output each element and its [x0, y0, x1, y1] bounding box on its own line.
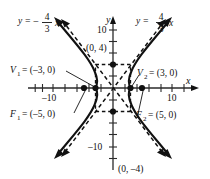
point-vertex-left: [92, 85, 98, 91]
hyperbola-figure-container: x y –10 10 10 –10 y = – 4 3 x y = 4 3 x …: [0, 0, 210, 179]
label-focus-left-name: F: [9, 109, 16, 119]
label-focus-left-value: = (–5, 0): [22, 109, 55, 120]
label-co-vertex-bottom: (0, –4): [118, 164, 143, 175]
leader-focus-left: [74, 91, 85, 113]
hyperbola-graph: x y –10 10 10 –10 y = – 4 3 x y = 4 3 x …: [0, 0, 210, 179]
asymptote-right-variable: x: [168, 18, 174, 28]
asymptote-left-denominator: 3: [45, 24, 50, 34]
point-focus-left: [81, 85, 87, 91]
y-axis-arrowhead: [110, 16, 116, 24]
label-focus-right-value: = (5, 0): [148, 110, 176, 121]
asymptote-right-numerator: 4: [159, 12, 164, 22]
x-tick-label-negative-ten: –10: [41, 93, 57, 103]
asymptote-left-prefix: y = –: [17, 16, 38, 26]
point-vertex-right: [127, 85, 133, 91]
asymptote-left-numerator: 4: [45, 12, 50, 22]
asymptote-left-equation: y = – 4 3 x: [17, 12, 60, 34]
x-axis-arrowhead: [191, 85, 199, 91]
leader-lines: [66, 71, 143, 114]
asymptote-right-denominator: 3: [159, 24, 164, 34]
label-co-vertex-top: (0, 4): [86, 43, 107, 54]
y-tick-label-positive-ten: 10: [97, 25, 107, 35]
point-focus-right: [139, 85, 145, 91]
x-axis-label: x: [185, 75, 191, 86]
label-focus-right-name: F: [135, 110, 142, 120]
label-vertex-left: V 1 = (–3, 0): [10, 65, 55, 78]
label-focus-right-subscript: 2: [143, 115, 147, 123]
asymptote-right-equation: y = 4 3 x: [135, 12, 174, 34]
label-vertex-right: V 2 = (3, 0): [137, 68, 177, 81]
y-tick-label-negative-ten: –10: [87, 142, 103, 152]
label-vertex-left-value: = (–3, 0): [22, 65, 55, 76]
label-vertex-right-name: V: [137, 68, 144, 78]
label-vertex-right-value: = (3, 0): [149, 68, 177, 79]
label-vertex-left-name: V: [10, 65, 17, 75]
asymptote-right-prefix: y =: [135, 16, 149, 26]
label-focus-left: F 1 = (–5, 0): [9, 109, 55, 122]
point-co-vertex-top: [110, 61, 116, 67]
label-focus-left-subscript: 1: [17, 114, 21, 122]
x-tick-label-positive-ten: 10: [167, 93, 177, 103]
y-axis-label: y: [105, 14, 111, 25]
label-vertex-right-subscript: 2: [144, 73, 148, 81]
asymptote-left-variable: x: [54, 18, 60, 28]
leader-vertex-left: [66, 71, 93, 86]
label-vertex-left-subscript: 1: [17, 70, 21, 78]
point-co-vertex-bottom: [110, 108, 116, 114]
